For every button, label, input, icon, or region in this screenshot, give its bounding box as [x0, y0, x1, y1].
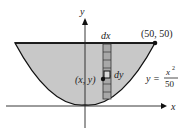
- point-x-y: [101, 77, 105, 81]
- parabola-diagram: y x dx (50, 50) (x, y) dy y = x 2 50: [0, 0, 189, 136]
- point-label-50-50: (50, 50): [141, 28, 173, 40]
- svg-text:2: 2: [172, 65, 175, 71]
- point-50-50: [153, 41, 158, 46]
- x-axis-arrow-icon: [161, 103, 167, 109]
- cell-dy: [104, 71, 110, 78]
- equation-label: y = x 2 50: [145, 65, 178, 89]
- y-axis-arrow-icon: [82, 18, 88, 25]
- strip-dx: [103, 44, 111, 99]
- cell-label: dy: [114, 69, 124, 80]
- svg-text:x: x: [165, 67, 170, 77]
- x-axis-label: x: [170, 101, 176, 112]
- svg-text:y =: y =: [145, 73, 160, 84]
- strip-label: dx: [101, 30, 111, 41]
- y-axis-label: y: [79, 6, 85, 17]
- generic-point-label: (x, y): [75, 74, 96, 86]
- svg-text:50: 50: [165, 79, 175, 89]
